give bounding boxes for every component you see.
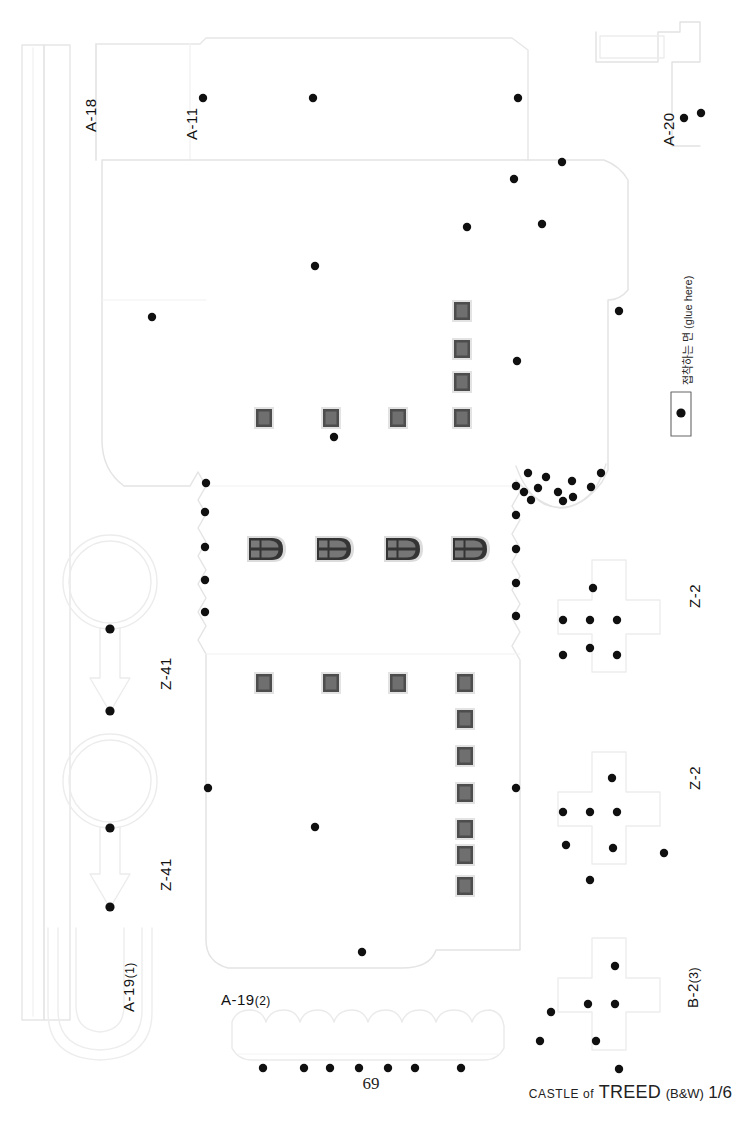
credit-sheet: 1/6 xyxy=(708,1083,732,1102)
glue-dot xyxy=(611,1000,619,1008)
glue-dot xyxy=(554,488,562,496)
glue-dot xyxy=(660,849,668,857)
glue-dot xyxy=(613,616,621,624)
glue-dot xyxy=(199,94,207,102)
glue-dot xyxy=(569,493,577,501)
glue-dot xyxy=(680,114,688,122)
glue-dot xyxy=(534,484,542,492)
part-label-z2-top: Z-2 xyxy=(686,584,703,608)
glue-dot xyxy=(608,774,616,782)
glue-dot xyxy=(512,482,520,490)
glue-dot xyxy=(527,496,535,504)
glue-dot xyxy=(611,962,619,970)
glue-dot xyxy=(309,94,317,102)
credit-variant: (B&W) xyxy=(666,1086,704,1101)
glue-dot xyxy=(597,469,605,477)
glue-dot xyxy=(536,1037,544,1045)
glue-dots-layer xyxy=(0,0,742,1128)
glue-dot xyxy=(559,616,567,624)
glue-dot xyxy=(586,876,594,884)
glue-dot xyxy=(384,1064,392,1072)
glue-dot xyxy=(201,508,209,516)
glue-dot-in-note-box xyxy=(676,408,685,417)
glue-dot xyxy=(201,576,209,584)
glue-dot xyxy=(609,844,617,852)
glue-dot xyxy=(542,473,550,481)
glue-dot xyxy=(586,808,594,816)
glue-dot xyxy=(559,808,567,816)
part-label-z2-bottom: Z-2 xyxy=(686,766,703,790)
glue-dot xyxy=(589,584,597,592)
glue-dot xyxy=(513,357,521,365)
glue-dot xyxy=(105,624,114,633)
glue-dot xyxy=(520,488,528,496)
glue-dot xyxy=(586,616,594,624)
glue-dot xyxy=(204,784,212,792)
glue-dot xyxy=(559,497,567,505)
part-label-a11: A-11 xyxy=(183,107,200,140)
glue-dot xyxy=(512,612,520,620)
glue-dot xyxy=(615,307,623,315)
part-label-a19-2: A-19(2) xyxy=(221,991,271,1008)
glue-dot xyxy=(201,543,209,551)
glue-dot xyxy=(411,1064,419,1072)
glue-dot xyxy=(697,109,705,117)
glue-dot xyxy=(201,608,209,616)
glue-dot xyxy=(512,545,520,553)
glue-dot xyxy=(562,841,570,849)
glue-dot xyxy=(358,948,366,956)
glue-dot xyxy=(558,158,566,166)
part-label-b2-3: B-2(3) xyxy=(684,967,701,1008)
glue-dot xyxy=(615,1065,623,1073)
glue-dot xyxy=(457,1064,465,1072)
glue-dot xyxy=(105,902,114,911)
glue-dot xyxy=(559,651,567,659)
glue-dot xyxy=(326,1064,334,1072)
glue-dot xyxy=(202,479,210,487)
glue-dot xyxy=(512,511,520,519)
glue-dot xyxy=(105,706,114,715)
credit-prefix: CASTLE of xyxy=(529,1087,594,1101)
glue-dot xyxy=(311,262,319,270)
glue-dot xyxy=(524,469,532,477)
glue-dot-group xyxy=(105,94,705,1073)
part-label-z41-bottom: Z-41 xyxy=(157,858,174,891)
glue-dot xyxy=(330,433,338,441)
glue-dot xyxy=(613,651,621,659)
glue-dot xyxy=(300,1064,308,1072)
glue-dot xyxy=(568,477,576,485)
glue-dot xyxy=(592,1037,600,1045)
papercraft-sheet: A-18 A-11 A-20 Z-41 Z-41 Z-2 Z-2 B-2(3) … xyxy=(0,0,742,1128)
glue-dot xyxy=(587,483,595,491)
glue-dot xyxy=(613,808,621,816)
glue-dot xyxy=(547,1008,555,1016)
credit-title: TREED xyxy=(599,1082,662,1102)
glue-dot xyxy=(514,94,522,102)
glue-dot xyxy=(105,823,114,832)
glue-dot xyxy=(538,220,546,228)
glue-here-note: 접착하는 면 (glue here) xyxy=(679,276,695,385)
glue-dot xyxy=(355,1064,363,1072)
footer-credit: CASTLE of TREED (B&W) 1/6 xyxy=(529,1082,732,1103)
glue-dot xyxy=(463,223,471,231)
glue-dot xyxy=(586,644,594,652)
glue-dot xyxy=(512,579,520,587)
glue-dot xyxy=(510,175,518,183)
part-label-a18: A-18 xyxy=(82,98,99,132)
glue-dot xyxy=(148,313,156,321)
part-label-z41-top: Z-41 xyxy=(157,657,174,690)
part-label-a19-1: A-19(1) xyxy=(120,962,137,1012)
glue-dot xyxy=(584,1000,592,1008)
glue-dot xyxy=(512,784,520,792)
glue-dot xyxy=(311,823,319,831)
glue-dot xyxy=(259,1064,267,1072)
part-label-a20: A-20 xyxy=(660,112,677,146)
